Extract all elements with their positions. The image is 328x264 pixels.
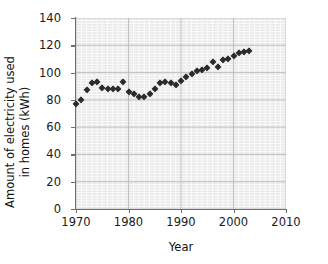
x-tick-mark xyxy=(234,209,235,213)
y-tick-20: 20 xyxy=(65,182,75,183)
y-tick-label: 140 xyxy=(39,11,61,25)
y-tick-0: 0 xyxy=(65,209,75,210)
y-axis-title-line-1: Amount of electricity used xyxy=(3,56,18,208)
y-tick-label: 40 xyxy=(46,147,61,161)
y-axis-title-line-2: in homes (kWh) xyxy=(18,56,33,208)
y-tick-mark xyxy=(71,154,75,155)
x-tick-label: 1990 xyxy=(166,215,195,229)
y-tick-120: 120 xyxy=(65,45,75,46)
y-tick-mark xyxy=(71,45,75,46)
y-tick-mark xyxy=(71,73,75,74)
y-tick-label: 100 xyxy=(39,66,61,80)
y-tick-mark xyxy=(71,182,75,183)
y-tick-60: 60 xyxy=(65,127,75,128)
major-gridlines xyxy=(76,18,286,209)
y-axis-title: Amount of electricity used in homes (kWh… xyxy=(0,0,36,264)
y-tick-140: 140 xyxy=(65,18,75,19)
y-tick-100: 100 xyxy=(65,73,75,74)
y-tick-40: 40 xyxy=(65,154,75,155)
y-tick-mark xyxy=(71,127,75,128)
y-tick-label: 120 xyxy=(39,38,61,52)
y-axis-line xyxy=(75,17,76,210)
y-tick-label: 0 xyxy=(54,202,61,216)
x-axis-title: Year xyxy=(76,240,286,254)
y-tick-label: 60 xyxy=(46,120,61,134)
y-tick-label: 20 xyxy=(46,175,61,189)
x-tick-mark xyxy=(129,209,130,213)
y-tick-mark xyxy=(71,18,75,19)
plot-area xyxy=(76,18,286,209)
y-tick-mark xyxy=(71,209,75,210)
x-tick-mark xyxy=(76,209,77,213)
x-tick-label: 1980 xyxy=(114,215,143,229)
x-tick-label: 1970 xyxy=(61,215,90,229)
x-tick-mark xyxy=(286,209,287,213)
x-tick-label: 2000 xyxy=(219,215,248,229)
y-tick-80: 80 xyxy=(65,100,75,101)
y-tick-label: 80 xyxy=(46,93,61,107)
chart-figure: 020406080100120140 19701980199020002010 … xyxy=(0,0,328,264)
x-tick-mark xyxy=(181,209,182,213)
x-tick-label: 2010 xyxy=(271,215,300,229)
